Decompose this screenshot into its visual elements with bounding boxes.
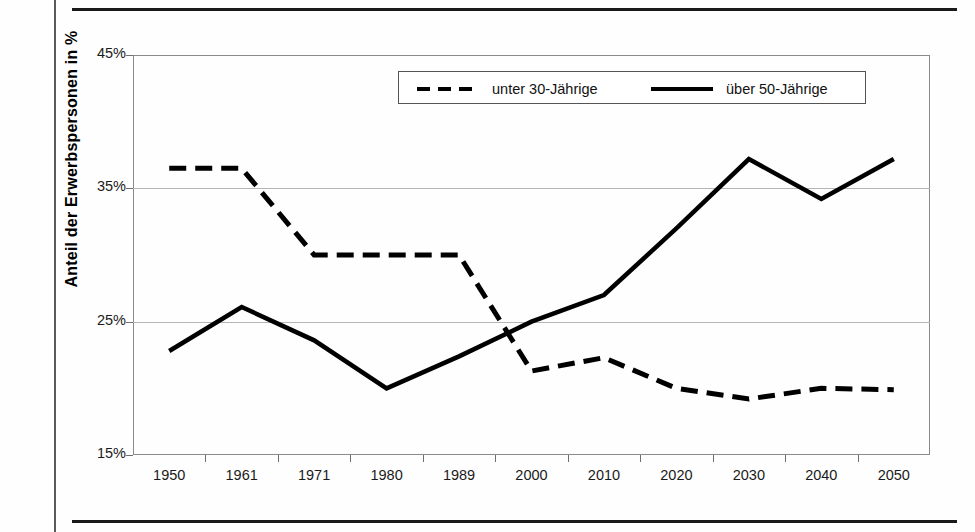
legend-swatch-dashed-icon (417, 87, 479, 91)
series-line-ueber-50 (169, 159, 894, 388)
legend-item-unter-30: unter 30-Jährige (417, 72, 598, 105)
chart-legend: unter 30-Jährige über 50-Jährige (398, 71, 866, 104)
legend-label-ueber-50: über 50-Jährige (726, 81, 828, 97)
page-canvas: Anteil der Erwerbspersonen in % 45%35%25… (0, 0, 975, 532)
legend-label-unter-30: unter 30-Jährige (492, 81, 598, 97)
series-line-unter-30 (169, 168, 894, 399)
legend-item-ueber-50: über 50-Jährige (651, 72, 828, 105)
legend-swatch-solid-icon (651, 87, 713, 91)
line-chart: Anteil der Erwerbspersonen in % 45%35%25… (0, 0, 975, 532)
